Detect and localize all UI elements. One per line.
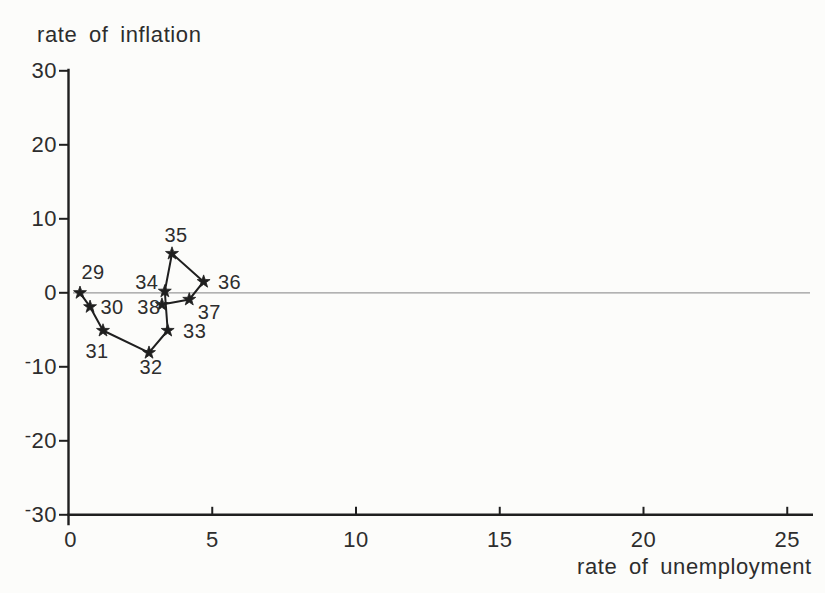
y-tick-label: -10 [25,351,57,379]
chart-canvas: 3020100-10-20-30051015202529303132333435… [0,0,825,593]
point-label-30: 30 [100,296,123,318]
y-tick-label: 0 [44,280,57,305]
data-point-star-33 [161,324,174,336]
y-tick-label: 10 [32,206,57,231]
data-point-star-29 [74,286,87,298]
x-tick-label: 5 [206,527,219,552]
inflation-unemployment-figure: rate of inflation 3020100-10-20-30051015… [0,0,825,593]
y-tick-label: 30 [32,58,57,83]
x-tick-label: 20 [631,527,656,552]
x-tick-label: 25 [775,527,800,552]
point-label-32: 32 [139,356,162,378]
y-tick-label: -20 [25,425,57,453]
x-tick-label: 15 [487,527,512,552]
point-label-29: 29 [81,261,104,283]
point-label-35: 35 [164,224,187,246]
x-tick-label: 10 [343,527,368,552]
x-tick-label: 0 [64,527,77,552]
point-label-38: 38 [137,296,160,318]
y-tick-label: 20 [32,132,57,157]
y-tick-label: -30 [25,499,57,527]
point-label-37: 37 [198,301,221,323]
data-point-star-31 [97,324,110,336]
point-label-34: 34 [135,271,158,293]
point-label-31: 31 [85,340,108,362]
y-axis-title: rate of inflation [37,24,202,46]
point-label-36: 36 [218,271,241,293]
x-axis-title: rate of unemployment [577,556,812,578]
